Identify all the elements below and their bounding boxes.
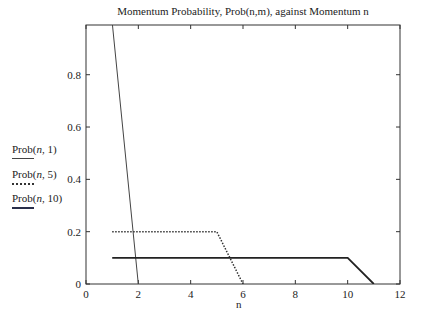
x-tick-label: 4: [188, 288, 194, 300]
y-tick-label: 0.4: [67, 173, 81, 185]
legend-swatch-solid-thin: [12, 158, 34, 159]
legend-item-prob-n-5: Prob(n, 5): [12, 168, 57, 185]
x-tick-label: 10: [342, 288, 354, 300]
series-line-1: [112, 22, 138, 284]
axes-frame: [86, 25, 400, 284]
y-tick-label: 0.8: [67, 69, 81, 81]
legend-swatch-solid-thick: [12, 207, 34, 209]
legend-label-prefix: Prob(: [12, 192, 36, 204]
legend-label-suffix: , 1): [42, 143, 57, 155]
legend-label-prefix: Prob(: [12, 168, 36, 180]
y-tick-label: 0.6: [67, 121, 81, 133]
legend-label-suffix: , 5): [42, 168, 57, 180]
legend-item-prob-n-1: Prob(n, 1): [12, 143, 57, 159]
x-tick-label: 12: [395, 288, 406, 300]
y-axis-ticks: 00.20.40.60.8: [67, 69, 400, 290]
legend-swatch-dotted: [12, 183, 34, 185]
y-tick-label: 0.2: [67, 226, 81, 238]
legend-label-prefix: Prob(: [12, 143, 36, 155]
x-tick-label: 0: [83, 288, 89, 300]
legend-label-suffix: , 10): [42, 192, 62, 204]
x-axis-ticks: 024681012: [83, 25, 405, 300]
series-lines: [112, 22, 374, 284]
y-tick-label: 0: [76, 278, 82, 290]
x-axis-label: n: [236, 298, 242, 310]
legend-item-prob-n-10: Prob(n, 10): [12, 192, 62, 209]
x-tick-label: 8: [293, 288, 299, 300]
plot-area: 024681012 00.20.40.60.8: [0, 0, 422, 320]
x-tick-label: 2: [136, 288, 142, 300]
